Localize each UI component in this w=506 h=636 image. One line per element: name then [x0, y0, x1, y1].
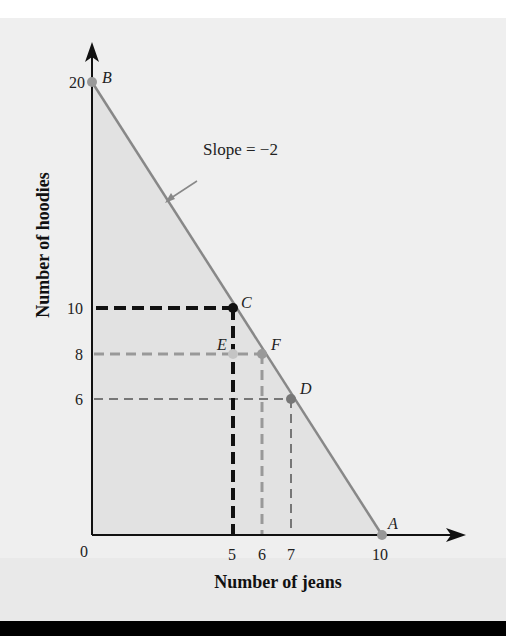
point-b	[87, 77, 97, 87]
y-tick-8: 8	[75, 346, 83, 363]
y-tick-20: 20	[69, 74, 85, 91]
x-tick-7: 7	[287, 546, 295, 563]
x-tick-10: 10	[372, 546, 388, 563]
point-a	[377, 530, 387, 540]
y-axis-title: Number of hoodies	[33, 172, 54, 318]
slope-annotation: Slope = −2	[203, 140, 278, 159]
y-tick-6: 6	[75, 391, 83, 408]
y-tick-10: 10	[67, 300, 83, 317]
plot-area: 20 10 8 6 0 5 6 7 10 B C E F D A Slope =…	[0, 0, 506, 636]
x-axis-title: Number of jeans	[0, 572, 506, 593]
label-b: B	[102, 69, 112, 86]
label-f: F	[270, 336, 281, 353]
point-d	[286, 394, 296, 404]
point-c	[228, 303, 238, 313]
label-e: E	[216, 336, 227, 353]
label-d: D	[299, 380, 312, 397]
label-a: A	[387, 515, 398, 532]
point-f	[257, 349, 267, 359]
x-tick-6: 6	[258, 546, 266, 563]
origin-label: 0	[80, 543, 88, 560]
label-c: C	[241, 294, 252, 311]
chart-figure: 20 10 8 6 0 5 6 7 10 B C E F D A Slope =…	[0, 0, 506, 636]
point-e	[228, 349, 238, 359]
x-tick-5: 5	[228, 546, 236, 563]
